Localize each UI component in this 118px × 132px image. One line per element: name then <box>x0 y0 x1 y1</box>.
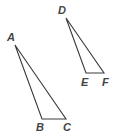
triangle-def: D E F <box>58 4 109 88</box>
triangle-abc: A B C <box>6 31 72 132</box>
vertex-label-a: A <box>6 31 15 43</box>
geometry-diagram: A B C D E F <box>0 0 118 132</box>
triangle-abc-outline <box>15 45 66 119</box>
vertex-label-c: C <box>63 121 72 132</box>
vertex-label-d: D <box>58 4 66 16</box>
triangle-def-outline <box>66 18 104 73</box>
vertex-label-b: B <box>36 121 44 132</box>
vertex-label-f: F <box>102 76 109 88</box>
vertex-label-e: E <box>81 76 89 88</box>
